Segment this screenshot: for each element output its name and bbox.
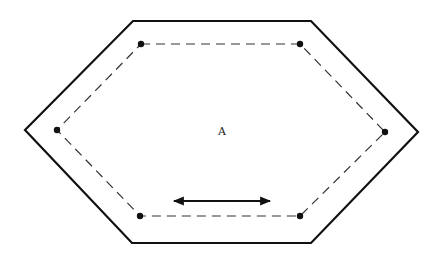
vertex-dot xyxy=(138,41,144,47)
center-label: A xyxy=(218,125,226,138)
vertex-dot xyxy=(297,41,303,47)
vertex-dot xyxy=(382,129,388,135)
vertex-dot xyxy=(137,213,143,219)
vertex-dot xyxy=(297,213,303,219)
vertex-dot xyxy=(54,127,60,133)
